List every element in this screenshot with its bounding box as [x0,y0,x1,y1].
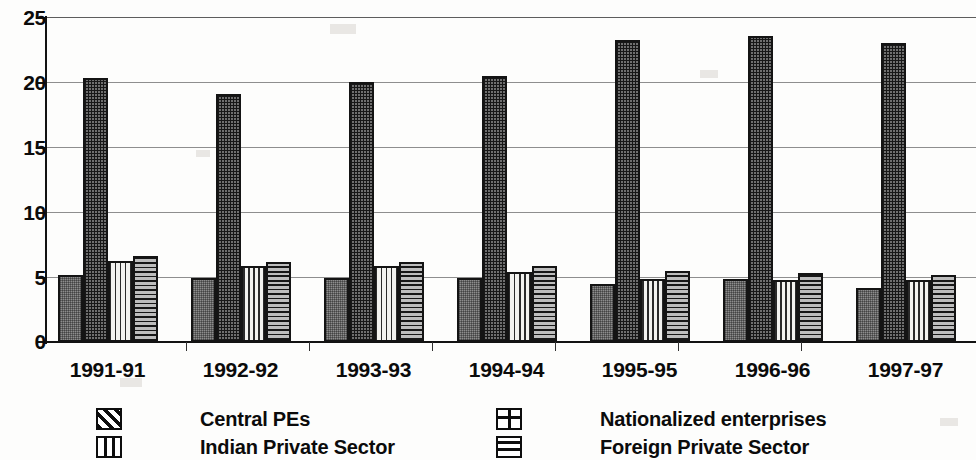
x-tickmark-4 [555,342,556,351]
bar [216,94,241,342]
bar [399,262,424,342]
x-tickmark-6 [801,342,802,351]
cross-hatch-icon [496,408,522,430]
bar [640,279,665,342]
bar [665,271,690,342]
bar [457,278,482,342]
bar [83,78,108,342]
plot-area: 25 20 15 10 5 0 [0,0,976,352]
bar [931,275,956,342]
bar [349,82,374,342]
bar [133,256,158,342]
x-tickmark-2 [309,342,310,351]
diagonal-hatch-icon [96,408,122,430]
bar [906,280,931,342]
legend-item: Central PEs [96,406,310,432]
bar [590,284,615,342]
x-tickmark-5 [678,342,679,351]
x-axis-label: 1997-97 [846,358,966,381]
bar [881,43,906,342]
chart-page: 25 20 15 10 5 0 1991-911992-921993-93199… [0,0,976,460]
legend-label: Central PEs [200,409,310,429]
x-axis-labels: 1991-911992-921993-931994-941995-951996-… [0,358,976,392]
x-axis-label: 1995-95 [580,358,700,381]
x-axis-label: 1992-92 [181,358,301,381]
bar [482,76,507,342]
x-axis-label: 1996-96 [713,358,833,381]
bar [241,266,266,342]
chart-legend: Central PEsNationalized enterprisesIndia… [0,404,976,460]
legend-label: Foreign Private Sector [600,437,809,457]
bar [507,272,532,342]
bar [266,262,291,342]
bar [798,273,823,342]
legend-label: Nationalized enterprises [600,409,826,429]
x-axis-label: 1993-93 [314,358,434,381]
bar [856,288,881,342]
bar [748,36,773,342]
bar-group-container [0,0,976,352]
legend-label: Indian Private Sector [200,437,395,457]
bar [615,40,640,342]
bar [773,280,798,342]
bar [191,278,216,342]
bar [532,266,557,342]
bar [324,278,349,342]
legend-item: Indian Private Sector [96,434,395,460]
legend-item: Foreign Private Sector [496,434,809,460]
horizontal-lines-icon [496,436,522,458]
x-tickmark-3 [432,342,433,351]
x-tickmark-1 [186,342,187,351]
legend-item: Nationalized enterprises [496,406,826,432]
x-axis-label: 1994-94 [447,358,567,381]
bar [723,279,748,342]
x-axis-label: 1991-91 [48,358,168,381]
bar [58,275,83,342]
bar [108,261,133,342]
vertical-lines-icon [96,436,122,458]
bar [374,266,399,342]
